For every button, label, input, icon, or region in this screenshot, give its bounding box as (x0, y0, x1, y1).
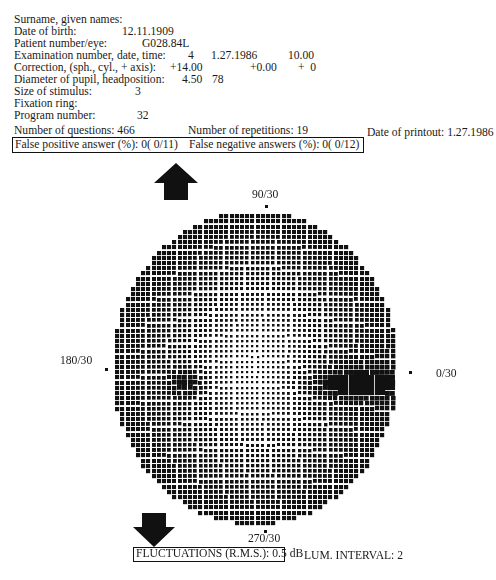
label-0: 0/30 (436, 368, 457, 380)
visual-field-plot (0, 0, 496, 580)
lum-interval: LUM. INTERVAL: 2 (304, 550, 403, 562)
label-180: 180/30 (60, 355, 92, 367)
label-90: 90/30 (252, 189, 278, 201)
arrow-down-icon (133, 513, 175, 547)
fluctuations-box: FLUCTUATIONS (R.M.S.): 0.5 dB (133, 547, 285, 562)
label-270: 270/30 (248, 533, 280, 545)
fluctuations-value: FLUCTUATIONS (R.M.S.): 0.5 dB (136, 548, 303, 560)
